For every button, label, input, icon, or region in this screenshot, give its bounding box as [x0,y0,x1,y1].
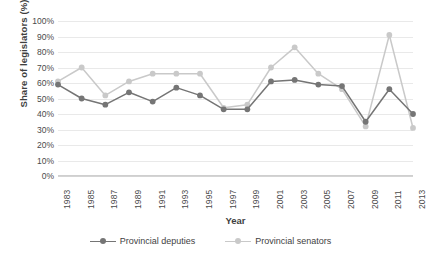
data-point [102,93,108,99]
legend-label: Provincial senators [255,236,331,246]
data-point [339,83,345,89]
data-point [79,65,85,71]
y-tick-label: 80% [14,48,54,57]
x-tick-label: 1995 [204,190,214,209]
x-tick-label: 2013 [417,190,427,209]
x-tick-label: 2011 [393,190,403,209]
y-tick-label: 100% [14,17,54,26]
x-tick-label: 1985 [86,190,96,209]
x-tick-label: 1991 [157,190,167,209]
data-point [173,85,179,91]
data-point [268,65,274,71]
data-point [126,79,132,85]
x-tick-label: 1989 [133,190,143,209]
data-point [126,89,132,95]
legend-swatch-icon [225,237,251,246]
data-point [150,99,156,105]
data-point [315,82,321,88]
y-tick-label: 30% [14,125,54,134]
chart-legend: Provincial deputiesProvincial senators [0,236,421,246]
y-tick-label: 90% [14,32,54,41]
series-line-provincial-deputies [58,80,413,122]
plot-area [58,21,413,176]
legend-label: Provincial deputies [120,236,196,246]
x-tick-label: 1993 [180,190,190,209]
legend-item-provincial-deputies[interactable]: Provincial deputies [90,236,196,246]
data-point [197,71,203,77]
x-tick-label: 1987 [109,190,119,209]
x-axis-tick-labels: 1983198519871989199119931995199719992001… [58,179,413,213]
data-point [386,86,392,92]
y-tick-label: 40% [14,110,54,119]
series-lines [58,21,413,176]
data-point [292,77,298,83]
x-tick-label: 2003 [299,190,309,209]
y-tick-label: 20% [14,141,54,150]
legend-swatch-icon [90,237,116,246]
data-point [315,71,321,77]
x-tick-label: 2007 [346,190,356,209]
x-tick-label: 1997 [228,190,238,209]
data-point [55,82,61,88]
data-point [292,44,298,50]
x-tick-label: 1999 [251,190,261,209]
gridline-0 [58,176,413,177]
data-point [268,79,274,85]
x-tick-label: 2009 [370,190,380,209]
x-tick-label: 1983 [62,190,72,209]
x-tick-label: 2001 [275,190,285,209]
y-tick-label: 70% [14,63,54,72]
data-point [79,96,85,102]
data-point [150,71,156,77]
legend-item-provincial-senators[interactable]: Provincial senators [225,236,331,246]
y-axis-tick-labels: 0%10%20%30%40%50%60%70%80%90%100% [14,21,54,176]
x-tick-label: 2005 [322,190,332,209]
x-axis-title: Year [58,215,413,226]
y-tick-label: 50% [14,94,54,103]
data-point [386,32,392,38]
data-point [197,93,203,99]
y-tick-label: 0% [14,172,54,181]
data-point [102,102,108,108]
data-point [221,106,227,112]
data-point [410,125,416,131]
data-point [363,119,369,125]
y-tick-label: 60% [14,79,54,88]
data-point [410,111,416,117]
y-tick-label: 10% [14,156,54,165]
data-point [244,106,250,112]
data-point [173,71,179,77]
